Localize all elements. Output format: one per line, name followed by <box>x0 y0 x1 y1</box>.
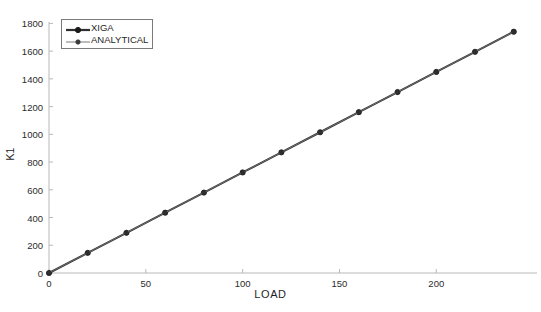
data-point <box>202 191 206 195</box>
y-tick-label: 600 <box>0 184 43 195</box>
y-tick-label: 1400 <box>0 73 43 84</box>
y-tick-label: 400 <box>0 212 43 223</box>
legend-label-analytical: ANALYTICAL <box>91 34 148 46</box>
x-axis-label: LOAD <box>0 288 541 300</box>
data-point <box>357 110 361 114</box>
chart-legend: XIGA ANALYTICAL <box>61 19 153 49</box>
data-point <box>396 90 400 94</box>
data-point <box>47 271 51 275</box>
legend-label-xiga: XIGA <box>91 22 114 34</box>
data-point <box>318 130 322 134</box>
legend-line-sample-xiga <box>65 22 91 34</box>
data-point <box>279 150 283 154</box>
data-point <box>125 231 129 235</box>
data-point <box>241 171 245 175</box>
legend-item-xiga: XIGA <box>65 22 148 34</box>
y-tick-label: 1600 <box>0 46 43 57</box>
legend-line-sample-analytical <box>65 34 91 46</box>
data-series-layer <box>46 29 516 275</box>
data-point <box>473 50 477 54</box>
data-point <box>434 70 438 74</box>
y-tick-label: 200 <box>0 240 43 251</box>
y-axis-label: K1 <box>4 134 16 174</box>
data-point <box>163 211 167 215</box>
legend-item-analytical: ANALYTICAL <box>65 34 148 46</box>
data-point <box>86 251 90 255</box>
y-tick-label: 1200 <box>0 101 43 112</box>
y-tick-label: 1800 <box>0 18 43 29</box>
data-point <box>512 30 516 34</box>
y-tick-label: 0 <box>0 268 43 279</box>
chart-figure: 020040060080010001200140016001800 050100… <box>0 0 541 312</box>
axis-ticks <box>49 23 436 273</box>
